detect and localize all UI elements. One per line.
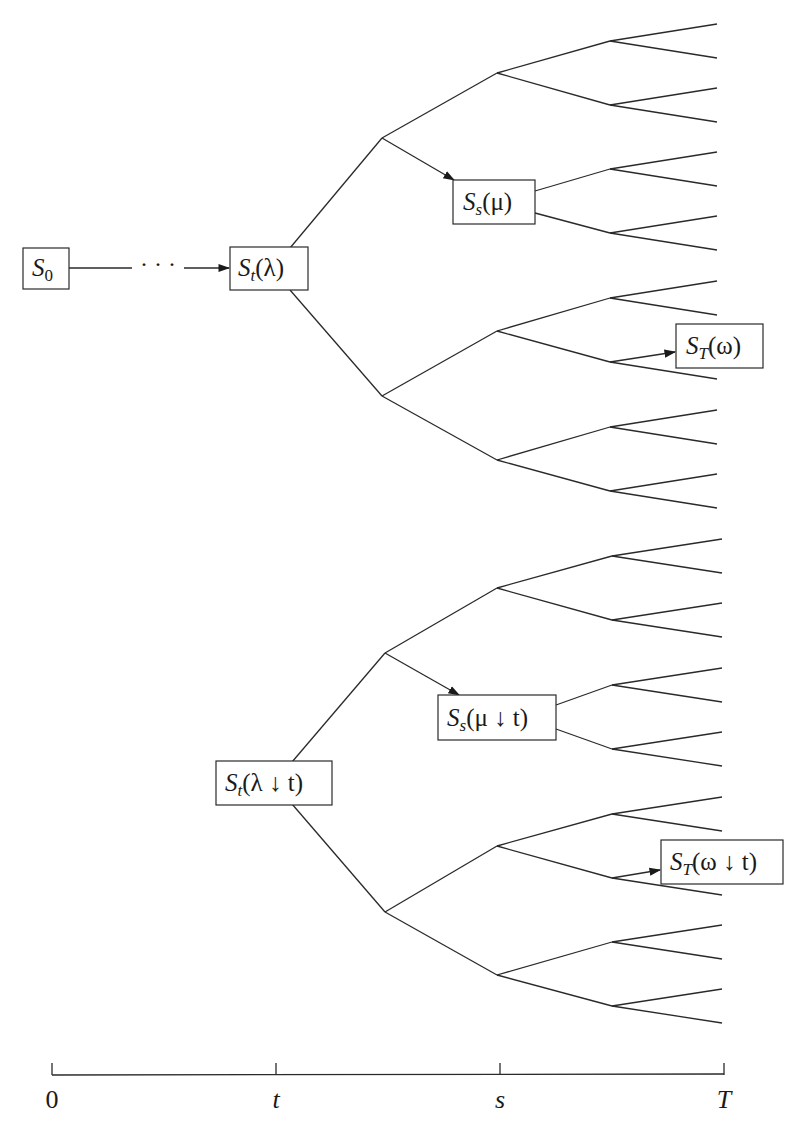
tree-leaf-edge	[610, 298, 717, 315]
tree-leaf-edge	[612, 989, 722, 1006]
tree-edge	[382, 331, 497, 396]
node-ss-mu-t-label: Ss(μ ↓ t)	[447, 704, 528, 735]
tree-leaf-edge	[612, 732, 722, 749]
tree-leaf-edge	[610, 233, 717, 250]
tree-edge	[535, 169, 610, 191]
tree-leaf-edge	[610, 105, 717, 122]
tree-edge	[382, 396, 497, 460]
tree-leaf-edge	[612, 620, 722, 637]
node-ss-mu: Ss(μ)	[453, 180, 535, 224]
tree-edge	[497, 556, 612, 588]
tree-leaf-edge	[610, 427, 717, 444]
tree-leaf-edge	[612, 942, 722, 959]
tree-leaf-edge	[612, 668, 722, 685]
tree-leaf-edge	[612, 685, 722, 702]
tree-edge	[497, 942, 612, 975]
tree-edge	[556, 729, 612, 749]
tree-edge	[382, 73, 497, 138]
tree-edge	[292, 653, 385, 762]
node-s0: S0	[23, 248, 69, 289]
time-axis-line	[52, 1074, 724, 1075]
tree-leaf-edge	[610, 169, 717, 186]
arrow-to-ss-mu-t	[385, 653, 459, 695]
arrow-to-sT-omega	[610, 352, 675, 362]
tree-leaf-edge	[612, 797, 722, 814]
node-ss-mu-t: Ss(μ ↓ t)	[438, 695, 556, 740]
axis-tick-label: 0	[46, 1085, 59, 1114]
arrow-to-sT-omega-t	[612, 870, 660, 878]
tree-edge	[497, 814, 612, 846]
tree-leaf-edge	[610, 88, 717, 105]
tree-leaf-edge	[612, 925, 722, 942]
tree-edge	[497, 460, 610, 491]
node-st-lambda-t-label: St(λ ↓ t)	[225, 769, 303, 800]
tree-leaf-edge	[610, 152, 717, 169]
axis-tick-label: T	[717, 1085, 733, 1114]
arrow-to-ss-mu	[382, 138, 454, 180]
tree-edge	[497, 41, 610, 73]
tree-leaf-edge	[612, 749, 722, 766]
tree-leaf-edge	[612, 814, 722, 831]
tree-leaf-edge	[610, 216, 717, 233]
tree-edge	[290, 290, 382, 396]
tree-leaf-edge	[612, 539, 722, 556]
node-sT-omega: ST(ω)	[676, 324, 763, 368]
time-axis-ticks: 0tsT	[46, 1063, 733, 1114]
node-sT-omega-label: ST(ω)	[686, 332, 741, 363]
tree-edge	[556, 685, 612, 705]
tree-edge	[497, 975, 612, 1006]
tree-edge	[535, 213, 610, 233]
bottom-tree-edges	[292, 539, 722, 1023]
node-sT-omega-t: ST(ω ↓ t)	[661, 840, 783, 884]
tree-leaf-edge	[610, 474, 717, 491]
tree-leaf-edge	[610, 491, 717, 508]
tree-leaf-edge	[610, 41, 717, 58]
tree-edge	[497, 331, 610, 362]
tree-leaf-edge	[610, 24, 717, 41]
initial-path: · · ·	[69, 251, 229, 277]
time-axis: 0tsT	[46, 1063, 733, 1114]
tree-leaf-edge	[612, 1006, 722, 1023]
tree-edge	[497, 298, 610, 331]
binomial-tree-diagram: · · · S0 St(λ) Ss(μ) ST(ω) St(λ ↓ t) Ss(…	[0, 0, 810, 1139]
tree-edge	[497, 73, 610, 105]
top-tree-edges	[290, 24, 717, 508]
tree-edge	[497, 588, 612, 620]
tree-edge	[385, 912, 497, 975]
node-st-lambda-label: St(λ)	[238, 254, 284, 285]
tree-edge	[385, 588, 497, 653]
node-st-lambda: St(λ)	[230, 247, 308, 290]
node-st-lambda-t: St(λ ↓ t)	[216, 761, 332, 805]
tree-edge	[292, 804, 385, 912]
axis-tick-label: s	[495, 1085, 505, 1114]
tree-edge	[497, 846, 612, 878]
tree-edge	[497, 427, 610, 460]
ellipsis: · · ·	[140, 251, 176, 277]
tree-leaf-edge	[610, 410, 717, 427]
tree-edge	[385, 846, 497, 912]
tree-edge	[290, 138, 382, 248]
node-ss-mu-label: Ss(μ)	[463, 188, 512, 219]
tree-leaf-edge	[612, 603, 722, 620]
axis-tick-label: t	[272, 1085, 280, 1114]
tree-leaf-edge	[612, 556, 722, 573]
tree-leaf-edge	[610, 281, 717, 298]
